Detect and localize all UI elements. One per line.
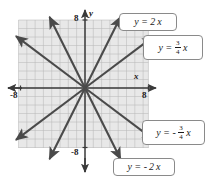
equation-label-y-equals-negative-three-quarters-x: y = - 3 4 x bbox=[142, 120, 205, 145]
eq4-coefficient: 2 bbox=[149, 162, 154, 172]
equation-label-y-equals-2x: y = 2 x bbox=[119, 13, 177, 31]
x-axis-min-label: -8 bbox=[10, 91, 18, 100]
y-axis-letter-label: y bbox=[89, 9, 93, 18]
eq3-variable: x bbox=[186, 128, 190, 138]
figure-container: -8 8 8 -8 x y y = 2 x y = 3 4 x y = - 3 bbox=[0, 0, 208, 181]
eq3-equals: = bbox=[163, 128, 171, 138]
eq3-numerator: 3 bbox=[178, 125, 184, 134]
eq1-equals: = bbox=[141, 17, 149, 27]
eq2-denominator: 4 bbox=[175, 48, 181, 56]
eq3-denominator: 4 bbox=[178, 133, 184, 141]
eq4-equals: = bbox=[134, 162, 142, 172]
eq4-variable: x bbox=[156, 162, 160, 172]
eq1-lhs: y bbox=[134, 17, 138, 27]
x-axis-letter-label: x bbox=[134, 72, 139, 81]
eq3-lhs: y bbox=[156, 128, 160, 138]
y-axis-min-label: -8 bbox=[71, 148, 79, 157]
eq2-fraction: 3 4 bbox=[175, 40, 181, 56]
eq1-coefficient: 2 bbox=[150, 17, 155, 27]
eq4-negative-sign: - bbox=[144, 162, 147, 172]
eq1-variable: x bbox=[157, 17, 161, 27]
eq2-variable: x bbox=[183, 43, 187, 53]
eq2-numerator: 3 bbox=[175, 40, 181, 49]
eq2-equals: = bbox=[165, 43, 173, 53]
eq2-lhs: y bbox=[158, 43, 162, 53]
equation-label-y-equals-three-quarters-x: y = 3 4 x bbox=[143, 35, 203, 60]
eq4-lhs: y bbox=[128, 162, 132, 172]
eq3-fraction: 3 4 bbox=[178, 125, 184, 141]
eq3-negative-sign: - bbox=[172, 128, 175, 138]
x-axis-max-label: 8 bbox=[142, 91, 147, 100]
y-axis-max-label: 8 bbox=[74, 14, 79, 23]
equation-label-y-equals-negative-2x: y = - 2 x bbox=[113, 158, 175, 176]
